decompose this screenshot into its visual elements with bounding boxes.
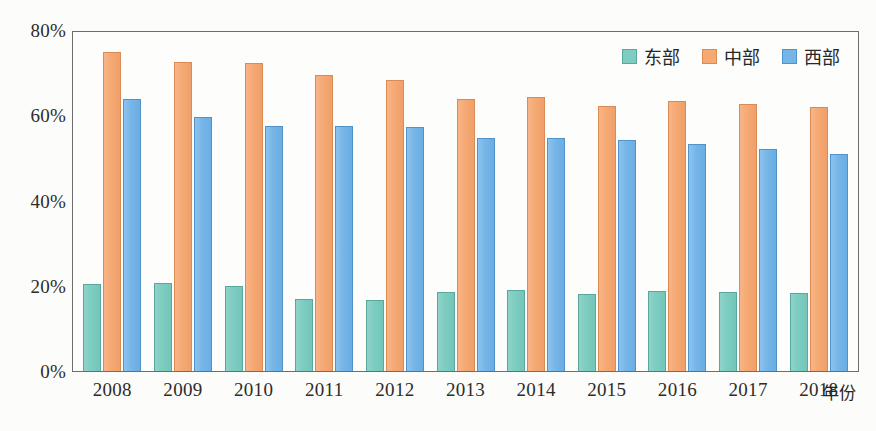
bar-central-2017[interactable]	[739, 104, 757, 371]
x-axis: 2008200920102011201220132014201520162017…	[73, 379, 858, 409]
bar-central-2011[interactable]	[315, 75, 333, 371]
x-tick-label: 2017	[713, 379, 784, 409]
y-tick-label: 0%	[4, 361, 66, 383]
bar-group-2018	[783, 32, 854, 371]
bar-central-2008[interactable]	[103, 52, 121, 371]
bar-group-2008	[77, 32, 148, 371]
x-tick-label: 2009	[148, 379, 219, 409]
x-tick-label: 2014	[501, 379, 572, 409]
bar-west-2008[interactable]	[123, 99, 141, 371]
bar-east-2012[interactable]	[366, 300, 384, 371]
bar-central-2009[interactable]	[174, 62, 192, 371]
bars-container	[73, 32, 858, 371]
bar-group-2016	[642, 32, 713, 371]
x-tick-label: 2013	[430, 379, 501, 409]
bar-group-2013	[430, 32, 501, 371]
bar-group-2017	[713, 32, 784, 371]
x-tick-label: 2016	[642, 379, 713, 409]
y-tick-label: 80%	[4, 20, 66, 42]
bar-group-2015	[571, 32, 642, 371]
bar-west-2011[interactable]	[335, 126, 353, 371]
bar-central-2015[interactable]	[598, 106, 616, 371]
bar-west-2017[interactable]	[759, 149, 777, 371]
x-tick-label: 2011	[289, 379, 360, 409]
bar-central-2016[interactable]	[668, 101, 686, 371]
bar-west-2010[interactable]	[265, 126, 283, 371]
bar-west-2015[interactable]	[618, 140, 636, 371]
x-axis-title: 年份	[822, 379, 856, 404]
x-tick-label: 2010	[218, 379, 289, 409]
bar-group-2009	[148, 32, 219, 371]
bar-west-2012[interactable]	[406, 127, 424, 371]
bar-central-2018[interactable]	[810, 107, 828, 371]
bar-east-2017[interactable]	[719, 292, 737, 371]
x-tick-label: 2008	[77, 379, 148, 409]
x-tick-label: 2012	[360, 379, 431, 409]
bar-west-2016[interactable]	[688, 144, 706, 371]
bar-east-2016[interactable]	[648, 291, 666, 371]
y-tick-label: 20%	[4, 276, 66, 298]
bar-east-2010[interactable]	[225, 286, 243, 371]
bar-east-2011[interactable]	[295, 299, 313, 371]
bar-west-2018[interactable]	[830, 154, 848, 371]
y-tick-label: 40%	[4, 191, 66, 213]
bar-group-2010	[218, 32, 289, 371]
bar-west-2014[interactable]	[547, 138, 565, 371]
y-axis: 0%20%40%60%80%	[0, 0, 66, 431]
y-tick-label: 60%	[4, 105, 66, 127]
bar-west-2009[interactable]	[194, 117, 212, 371]
bar-central-2012[interactable]	[386, 80, 404, 371]
bar-east-2009[interactable]	[154, 283, 172, 371]
bar-group-2012	[360, 32, 431, 371]
x-tick-label: 2015	[571, 379, 642, 409]
chart-figure: 0%20%40%60%80% 东部中部西部 200820092010201120…	[0, 0, 876, 431]
bar-central-2010[interactable]	[245, 63, 263, 371]
bar-east-2008[interactable]	[83, 284, 101, 371]
bar-east-2015[interactable]	[578, 294, 596, 371]
bar-group-2014	[501, 32, 572, 371]
bar-group-2011	[289, 32, 360, 371]
bar-east-2013[interactable]	[437, 292, 455, 371]
bar-central-2014[interactable]	[527, 97, 545, 371]
bar-west-2013[interactable]	[477, 138, 495, 371]
bar-central-2013[interactable]	[457, 99, 475, 371]
bar-east-2018[interactable]	[790, 293, 808, 371]
bar-east-2014[interactable]	[507, 290, 525, 371]
